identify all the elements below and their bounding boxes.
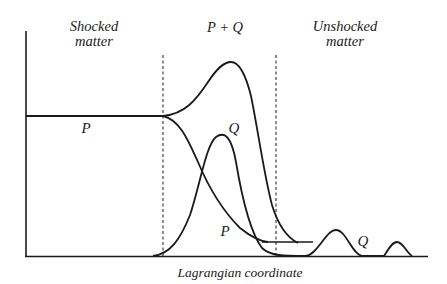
curve-label-q-peak: Q bbox=[226, 121, 242, 136]
q-curve bbox=[153, 135, 412, 256]
region-label-mixed: P + Q bbox=[190, 20, 260, 35]
region-label-unshocked-line2: matter bbox=[300, 34, 390, 49]
p-plus-q-curve bbox=[163, 62, 298, 243]
curve-label-q-waves: Q bbox=[355, 234, 371, 249]
region-label-shocked: Shocked matter bbox=[57, 19, 131, 49]
curve-label-p-plateau: P bbox=[78, 121, 94, 136]
p-curve bbox=[163, 116, 268, 242]
region-label-shocked-line1: Shocked bbox=[57, 19, 131, 34]
curve-label-p-tail: P bbox=[217, 224, 233, 239]
region-label-unshocked-line1: Unshocked bbox=[300, 19, 390, 34]
region-label-unshocked: Unshocked matter bbox=[300, 19, 390, 49]
x-axis-label: Lagrangian coordinate bbox=[140, 265, 340, 280]
region-label-shocked-line2: matter bbox=[57, 34, 131, 49]
